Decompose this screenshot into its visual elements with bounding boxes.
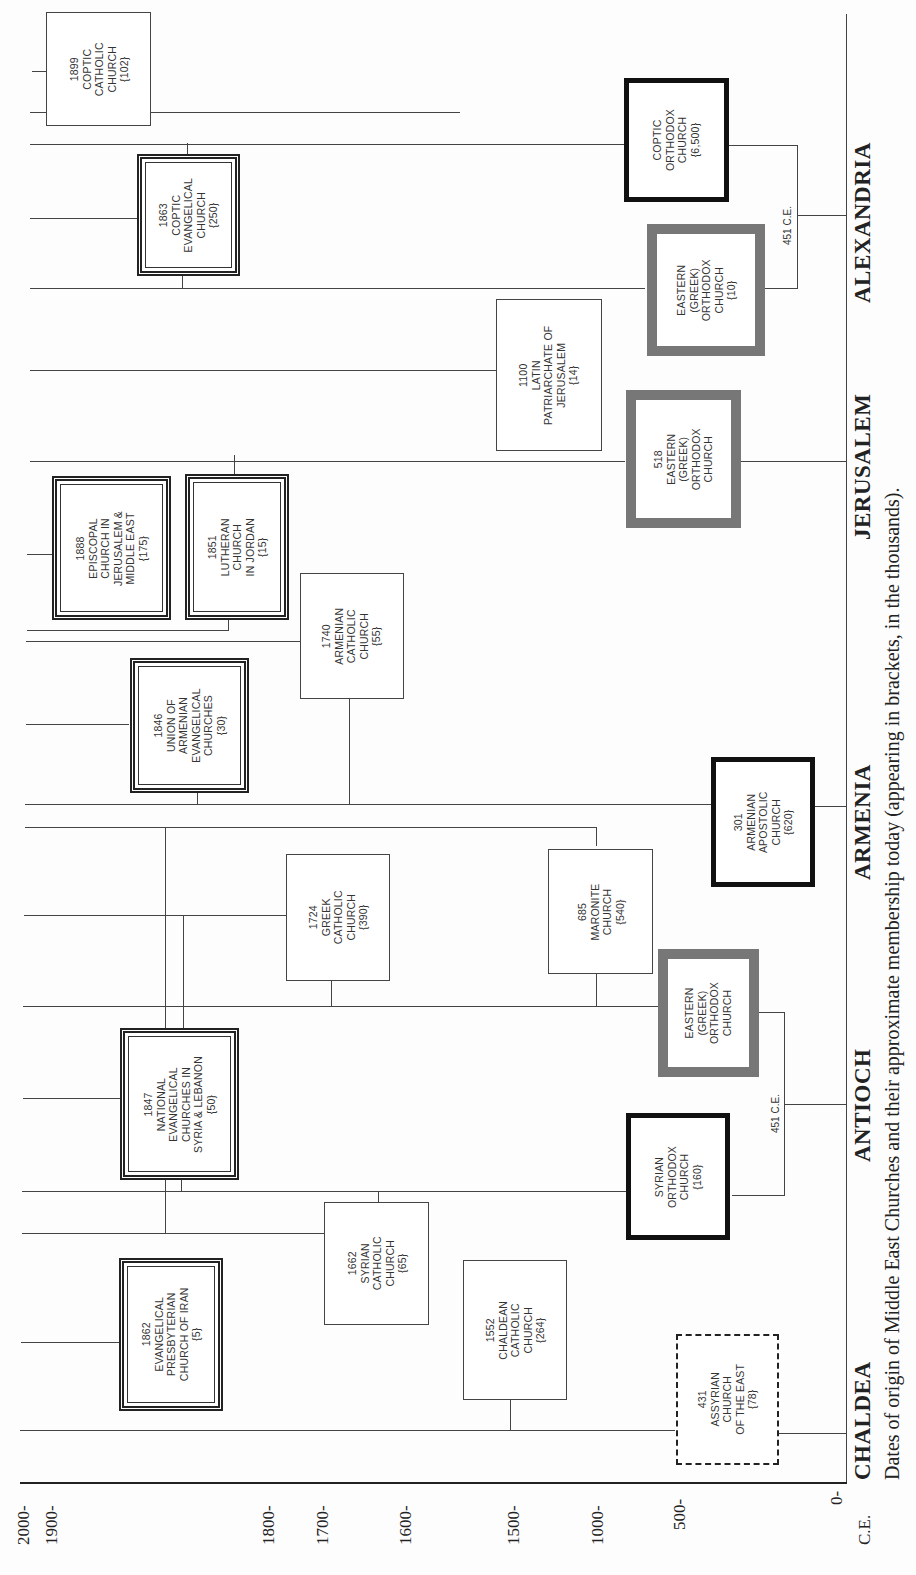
region-armenia: ARMENIA: [850, 764, 876, 880]
box-episcopal[interactable]: 1888EPISCOPALCHURCH INJERUSALEM &MIDDLE …: [52, 476, 171, 620]
box-syrian-orthodox[interactable]: SYRIANORTHODOXCHURCH{160}: [626, 1113, 730, 1240]
box-eastern-orthodox-antioch[interactable]: EASTERN(GREEK)ORTHODOXCHURCH: [658, 949, 759, 1077]
label-eastern-orthodox-alexandria: EASTERN(GREEK)ORTHODOXCHURCH{10}: [675, 259, 738, 321]
box-assyrian[interactable]: 431ASSYRIANCHURCHOF THE EAST{78}: [676, 1334, 779, 1465]
line-antioch-eastern-right: [757, 1012, 785, 1013]
tick-1000: 1000-: [588, 1505, 608, 1545]
tick-1500: 1500-: [504, 1505, 524, 1545]
line-jerusalem-main: [30, 461, 625, 462]
tie-natevang-bottom-b: [181, 1178, 182, 1192]
tick-1600: 1600-: [396, 1505, 416, 1545]
region-chaldea: CHALDEA: [850, 1361, 876, 1480]
line-syrian-orth-right: [732, 1195, 785, 1196]
box-coptic-orthodox[interactable]: COPTICORTHODOXCHURCH{6,500}: [624, 78, 729, 202]
box-evangelical-presbyterian[interactable]: 1862EVANGELICALPRESBYTERIANCHURCH OF IRA…: [119, 1258, 223, 1411]
label-coptic-orthodox: COPTICORTHODOXCHURCH{6,500}: [651, 109, 701, 171]
label-assyrian: 431ASSYRIANCHURCHOF THE EAST{78}: [696, 1364, 759, 1435]
box-maronite[interactable]: 685MARONITECHURCH{540}: [548, 849, 653, 974]
label-armenian-evangelical: 1846UNION OFARMENIANEVANGELICALCHURCHES{…: [152, 688, 227, 762]
region-antioch: ANTIOCH: [850, 1049, 876, 1162]
tie-coptic-evang-bottom: [182, 275, 183, 289]
church-origins-diagram: 1899COPTICCATHOLICCHURCH{102} 1863COPTIC…: [0, 0, 916, 1575]
label-episcopal: 1888EPISCOPALCHURCH INJERUSALEM &MIDDLE …: [74, 510, 149, 585]
label-eastern-orthodox-antioch: EASTERN(GREEK)ORTHODOXCHURCH: [683, 982, 733, 1044]
tie-natevang-b: [183, 915, 184, 1030]
tick-0: 0-: [827, 1491, 847, 1505]
box-chaldean-catholic[interactable]: 1552CHALDEANCATHOLICCHURCH{264}: [463, 1260, 567, 1400]
tie-maronite-bottom: [596, 973, 597, 1007]
tick-500: 500-: [670, 1499, 690, 1530]
label-syrian-orthodox: SYRIANORTHODOXCHURCH{160}: [653, 1145, 703, 1207]
note-alexandria-451: 451 C.E.: [782, 206, 793, 245]
label-lutheran: 1851LUTHERANCHURCHIN JORDAN{15}: [206, 518, 269, 576]
line-coptic-catholic-stub: [32, 71, 46, 72]
line-armenia-main: [25, 804, 711, 805]
box-armenian-evangelical[interactable]: 1846UNION OFARMENIANEVANGELICALCHURCHES{…: [130, 658, 249, 793]
label-national-evangelical: 1847NATIONALEVANGELICALCHURCHES INSYRIA …: [142, 1056, 217, 1153]
figure-caption: Dates of origin of Middle East Churches …: [881, 487, 904, 1480]
box-latin-patriarchate[interactable]: 1100LATINPATRIARCHATE OFJERUSALEM{14}: [496, 299, 602, 451]
label-greek-catholic: 1724GREEKCATHOLICCHURCH{390}: [307, 891, 370, 945]
line-natevang-stub: [23, 1098, 121, 1099]
box-armenian-catholic[interactable]: 1740ARMENIANCATHOLICCHURCH{55}: [300, 573, 404, 699]
time-axis: [20, 1482, 847, 1484]
line-greek-catholic: [24, 915, 286, 916]
label-eastern-orthodox-jerusalem: 518EASTERN(GREEK)ORTHODOXCHURCH: [652, 428, 715, 490]
label-armenian-apostolic: 301ARMENIANAPOSTOLICCHURCH{620}: [732, 791, 795, 853]
tick-1800: 1800-: [259, 1505, 279, 1545]
line-jerusalem-right: [740, 461, 846, 462]
tick-1900: 1900-: [42, 1505, 62, 1545]
tie-greek-catholic: [331, 981, 332, 1007]
tie-maronite-top: [596, 827, 597, 846]
line-lutheran-bottom: [27, 630, 229, 631]
line-coptic-main: [30, 144, 666, 145]
line-armenia-right: [814, 806, 846, 807]
box-national-evangelical[interactable]: 1847NATIONALEVANGELICALCHURCHES INSYRIA …: [120, 1028, 239, 1180]
line-eastern-alex-main: [30, 288, 645, 289]
line-syrian-main: [22, 1191, 627, 1192]
line-assyrian-right: [779, 1433, 846, 1434]
label-evangelical-presbyterian: 1862EVANGELICALPRESBYTERIANCHURCH OF IRA…: [140, 1288, 203, 1382]
tie-natevang-bottom-a: [165, 1178, 166, 1234]
tick-1700: 1700-: [313, 1505, 333, 1545]
box-lutheran[interactable]: 1851LUTHERANCHURCHIN JORDAN{15}: [185, 474, 289, 620]
label-latin-patriarchate: 1100LATINPATRIARCHATE OFJERUSALEM{14}: [518, 325, 581, 424]
label-syrian-catholic: 1662SYRIANCATHOLICCHURCH{65}: [345, 1237, 408, 1291]
label-coptic-evangelical: 1863COPTICEVANGELICALCHURCH{250}: [157, 178, 220, 252]
label-coptic-catholic: 1899COPTICCATHOLICCHURCH{102}: [67, 42, 130, 96]
line-coptic-orthodox-right: [728, 145, 798, 146]
label-armenian-catholic: 1740ARMENIANCATHOLICCHURCH{55}: [321, 607, 384, 664]
tie-armenian-catholic: [349, 696, 350, 805]
line-chaldea-main: [20, 1430, 675, 1431]
region-jerusalem: JERUSALEM: [850, 394, 876, 540]
box-coptic-evangelical[interactable]: 1863COPTICEVANGELICALCHURCH{250}: [137, 154, 240, 276]
axis-era-label: C.E.: [855, 1515, 875, 1545]
line-presbyterian-stub: [21, 1342, 121, 1343]
line-episcopal-stub: [27, 554, 54, 555]
tick-2000: 2000-: [14, 1505, 34, 1545]
line-coptic-evang-stub: [30, 218, 137, 219]
line-maronite-top: [25, 827, 596, 828]
line-syrian-catholic: [22, 1233, 324, 1234]
box-eastern-orthodox-jerusalem[interactable]: 518EASTERN(GREEK)ORTHODOXCHURCH: [626, 390, 741, 528]
box-coptic-catholic[interactable]: 1899COPTICCATHOLICCHURCH{102}: [46, 12, 151, 126]
box-eastern-orthodox-alexandria[interactable]: EASTERN(GREEK)ORTHODOXCHURCH{10}: [647, 224, 765, 356]
box-greek-catholic[interactable]: 1724GREEKCATHOLICCHURCH{390}: [286, 854, 390, 981]
box-armenian-apostolic[interactable]: 301ARMENIANAPOSTOLICCHURCH{620}: [711, 757, 815, 887]
line-armenian-evang-stub: [26, 724, 129, 725]
tie-armenian-evang: [197, 792, 198, 805]
label-chaldean-catholic: 1552CHALDEANCATHOLICCHURCH{264}: [484, 1301, 547, 1360]
line-eastern-alex-right: [764, 288, 798, 289]
tie-lutheran-bottom: [228, 620, 229, 631]
alexandria-split: [797, 145, 798, 288]
tie-natevang-a: [165, 827, 166, 1030]
baseline-axis: [846, 14, 847, 1484]
box-syrian-catholic[interactable]: 1662SYRIANCATHOLICCHURCH{65}: [324, 1202, 429, 1325]
alexandria-stem: [797, 215, 846, 216]
label-maronite: 685MARONITECHURCH{540}: [576, 883, 626, 940]
note-antioch-451: 451 C.E.: [770, 1094, 781, 1133]
line-armenian-catholic: [26, 641, 300, 642]
line-antioch-eastern: [23, 1006, 660, 1007]
line-latin: [30, 370, 496, 371]
line-antioch-stem: [784, 1104, 846, 1105]
